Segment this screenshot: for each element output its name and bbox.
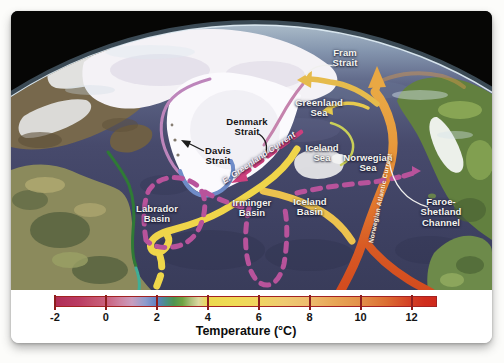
figure-scan: Fram Strait Greenland Sea Denmark Strait… bbox=[0, 0, 504, 363]
colorbar-tick-label: 12 bbox=[397, 311, 427, 323]
globe-map: Fram Strait Greenland Sea Denmark Strait… bbox=[11, 11, 492, 290]
colorbar-tick-label: 8 bbox=[295, 311, 325, 323]
colorbar-tick-label: 6 bbox=[244, 311, 274, 323]
colorbar-tick bbox=[207, 295, 209, 310]
colorbar-tick bbox=[54, 295, 56, 310]
colorbar-tick bbox=[156, 295, 158, 310]
colorbar-tick bbox=[360, 295, 362, 310]
colorbar-tick bbox=[411, 295, 413, 310]
figure-card: Fram Strait Greenland Sea Denmark Strait… bbox=[11, 11, 492, 343]
temperature-legend: -2024681012 Temperature (°C) bbox=[11, 290, 492, 343]
colorbar-tick-label: -2 bbox=[40, 311, 70, 323]
colorbar-tick-label: 10 bbox=[346, 311, 376, 323]
colorbar-tick bbox=[258, 295, 260, 310]
colorbar-tick-label: 4 bbox=[193, 311, 223, 323]
colorbar-gradient bbox=[55, 296, 437, 307]
globe-svg bbox=[11, 11, 492, 290]
colorbar-area: -2024681012 Temperature (°C) bbox=[55, 290, 437, 343]
colorbar-tick-label: 0 bbox=[91, 311, 121, 323]
colorbar-tick-label: 2 bbox=[142, 311, 172, 323]
colorbar-title: Temperature (°C) bbox=[55, 324, 437, 338]
colorbar-tick bbox=[105, 295, 107, 310]
colorbar-tick bbox=[309, 295, 311, 310]
